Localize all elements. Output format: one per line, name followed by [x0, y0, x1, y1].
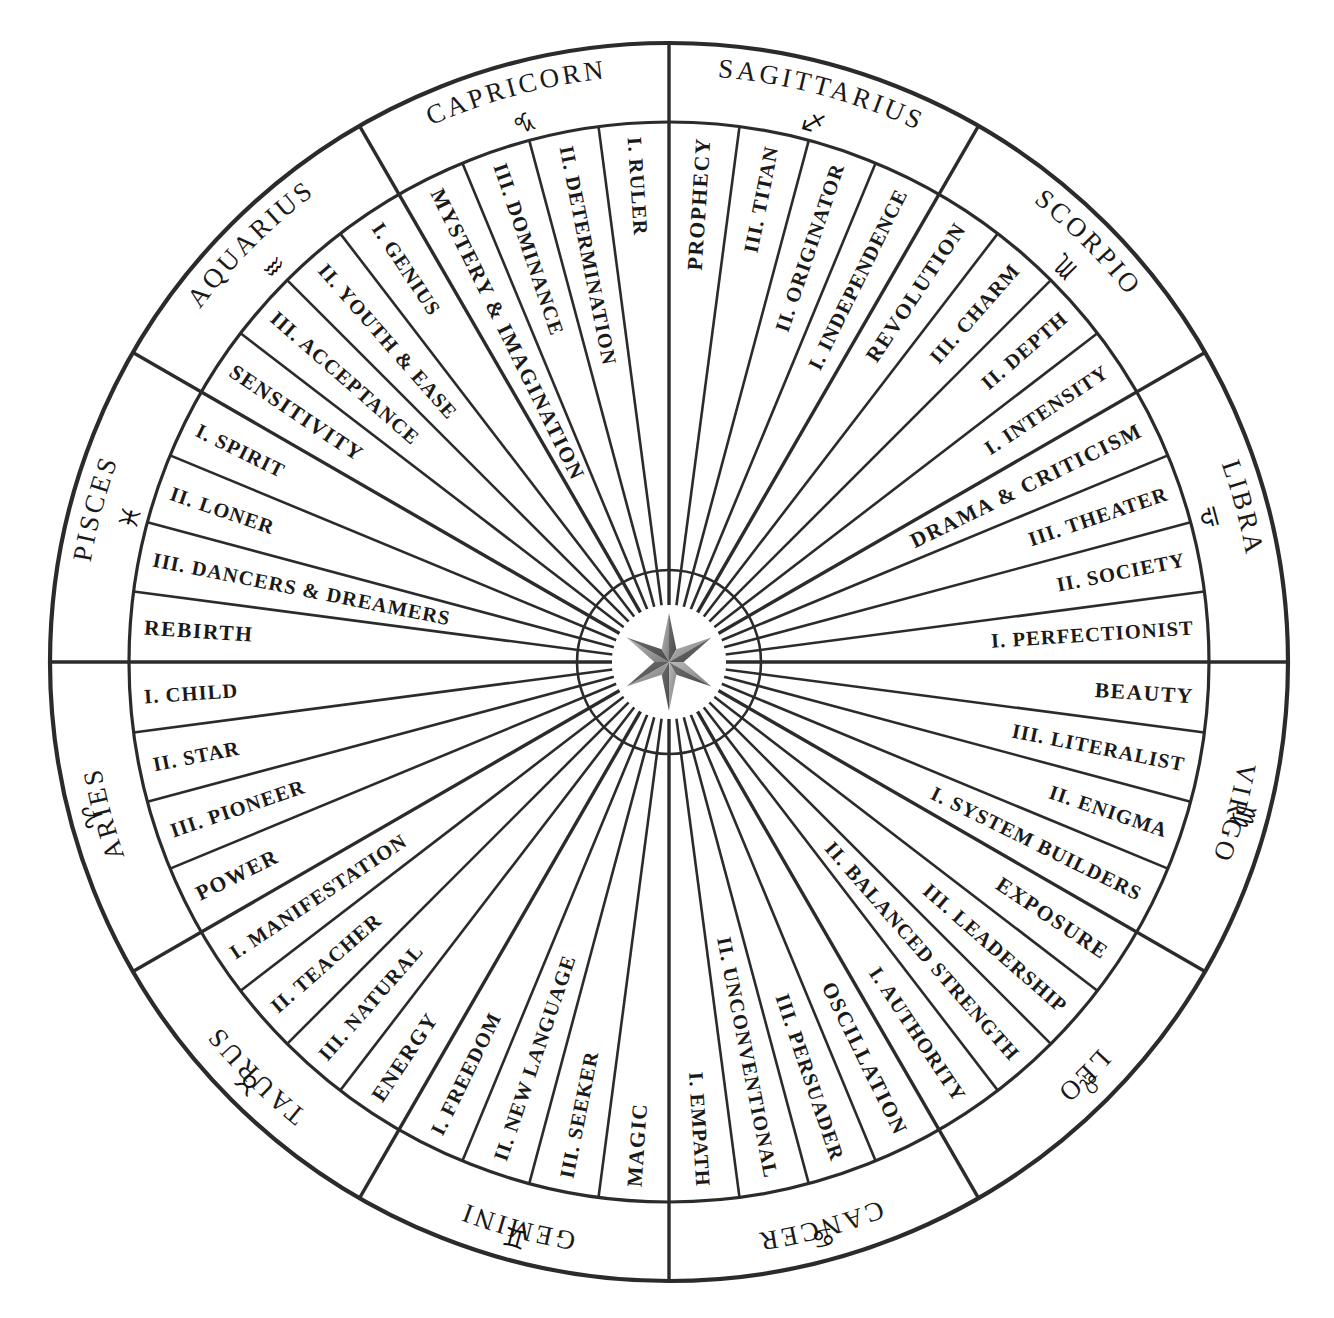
sign-name-label: LIBRA — [1216, 456, 1270, 559]
pisces-symbol: ♓ — [112, 502, 147, 532]
segment-divider-spoke — [462, 715, 647, 1161]
decan-label: I. PERFECTIONIST — [990, 617, 1194, 652]
decan-label: II. UNCONVENTIONAL — [713, 935, 782, 1180]
sagittarius-symbol: ♐ — [799, 105, 829, 140]
decan-label: III. LEADERSHIP — [919, 879, 1072, 1017]
mode-label: REBIRTH — [143, 616, 254, 647]
segment-divider-spoke — [722, 455, 1168, 640]
segment-divider-spoke — [691, 163, 876, 609]
decan-label: III. SEEKER — [556, 1049, 603, 1180]
decan-label: III. DANCERS & DREAMERS — [151, 549, 453, 630]
decan-label: II. SOCIETY — [1055, 549, 1187, 596]
decan-label: II. DEPTH — [977, 307, 1072, 394]
decan-label: I. EMPATH — [685, 1071, 714, 1187]
mode-label: ENERGY — [367, 1008, 443, 1106]
zodiac-wheel-diagram: SAGITTARIUS♐PROPHECYIII. TITANII. ORIGIN… — [0, 0, 1334, 1318]
decan-label: I. RULER — [624, 136, 652, 236]
decan-label: I. MANIFESTATION — [226, 829, 411, 963]
decan-label: II. STAR — [151, 737, 242, 776]
decan-label: I. GENIUS — [368, 219, 446, 320]
decan-label: II. YOUTH & EASE — [314, 259, 462, 423]
mode-label: MAGIC — [623, 1102, 652, 1188]
decan-label: III. ACCEPTANCE — [266, 307, 424, 449]
compass-star-hub — [612, 605, 726, 719]
decan-label: II. ENIGMA — [1046, 781, 1170, 842]
decan-label: III. PIONEER — [167, 775, 307, 841]
decan-label: III. THEATER — [1026, 483, 1171, 551]
mode-label: BEAUTY — [1094, 678, 1195, 708]
capricorn-symbol: ♑ — [509, 105, 539, 140]
sign-name-label: PISCES — [67, 451, 124, 564]
decan-label: III. TITAN — [740, 144, 783, 254]
decan-label: I. SPIRIT — [192, 419, 288, 481]
decan-label: II. DETERMINATION — [556, 144, 621, 367]
mode-label: MYSTERY & IMAGINATION — [426, 185, 590, 484]
wheel-canvas: SAGITTARIUS♐PROPHECYIII. TITANII. ORIGIN… — [0, 0, 1334, 1318]
decan-label: II. LONER — [167, 483, 277, 539]
segment-divider-spoke — [462, 163, 647, 609]
segment-divider-spoke — [241, 697, 624, 991]
segment-divider-spoke — [722, 684, 1168, 869]
mode-label: PROPHECY — [683, 136, 716, 271]
libra-symbol: ♎ — [1191, 502, 1226, 532]
decan-label: I. CHILD — [143, 679, 238, 707]
